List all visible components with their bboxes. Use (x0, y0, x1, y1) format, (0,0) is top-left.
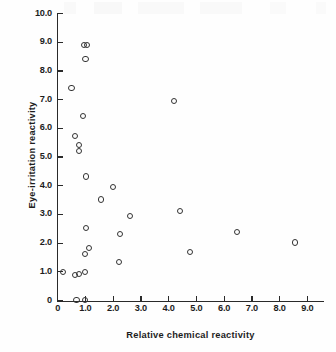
data-point (187, 249, 193, 255)
data-point-layer (0, 0, 336, 352)
data-point (82, 56, 88, 62)
data-point (83, 225, 89, 231)
data-point (82, 297, 88, 303)
data-point (117, 231, 123, 237)
data-point (76, 271, 82, 277)
data-point (84, 42, 90, 48)
scatter-plot-figure: 01.02.03.04.05.06.07.08.09.010.0 01.02.0… (0, 0, 336, 352)
data-point (234, 229, 240, 235)
data-point (98, 196, 104, 202)
data-point (80, 113, 86, 119)
data-point (292, 239, 298, 245)
data-point (60, 269, 66, 275)
data-point (76, 148, 82, 154)
data-point (116, 259, 122, 265)
data-point (82, 251, 88, 257)
data-point (171, 98, 177, 104)
data-point (177, 208, 183, 214)
data-point (83, 173, 89, 179)
data-point (73, 297, 79, 303)
data-point (86, 245, 92, 251)
data-point (68, 85, 74, 91)
data-point (110, 184, 116, 190)
data-point (127, 213, 133, 219)
data-point (72, 133, 78, 139)
data-point (82, 269, 88, 275)
